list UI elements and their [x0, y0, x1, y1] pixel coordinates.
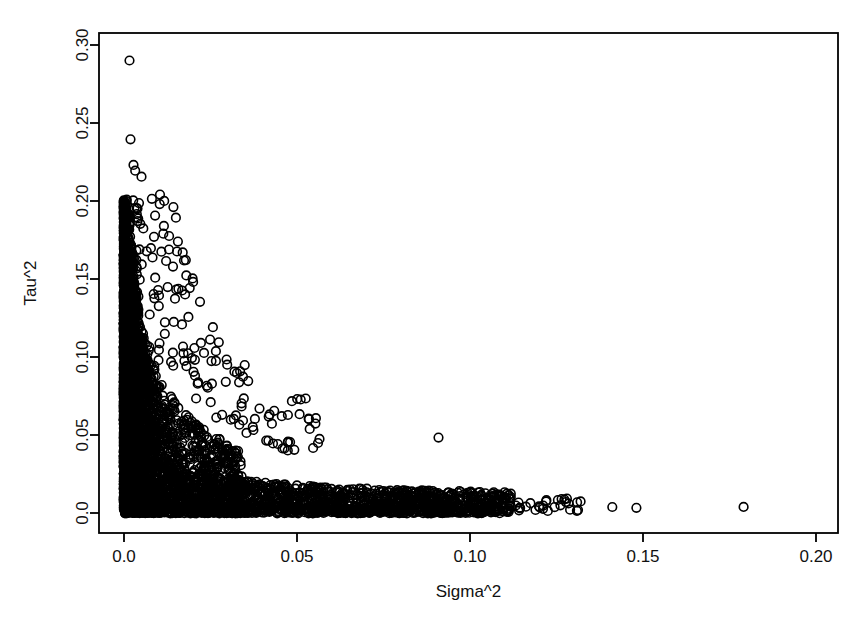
- y-axis-tick-label: 0.30: [73, 28, 92, 61]
- y-axis-tick-label: 0.20: [73, 184, 92, 217]
- y-axis-tick-label: 0.05: [73, 418, 92, 451]
- x-axis-tick-label: 0.05: [280, 547, 313, 566]
- y-axis-tick-label: 0.25: [73, 106, 92, 139]
- x-axis-tick-label: 0.0: [112, 547, 136, 566]
- x-axis-tick-label: 0.10: [453, 547, 486, 566]
- x-axis-title: Sigma^2: [436, 582, 502, 601]
- y-axis-tick-label: 0.0: [73, 501, 92, 525]
- y-axis-tick-label: 0.10: [73, 340, 92, 373]
- y-axis-title: Tau^2: [21, 261, 40, 306]
- plot-canvas: 0.00.050.100.150.200.00.050.100.150.200.…: [0, 0, 862, 635]
- scatter-plot-figure: 0.00.050.100.150.200.00.050.100.150.200.…: [0, 0, 862, 635]
- x-axis-tick-label: 0.20: [799, 547, 832, 566]
- x-axis-tick-label: 0.15: [626, 547, 659, 566]
- y-axis-tick-label: 0.15: [73, 262, 92, 295]
